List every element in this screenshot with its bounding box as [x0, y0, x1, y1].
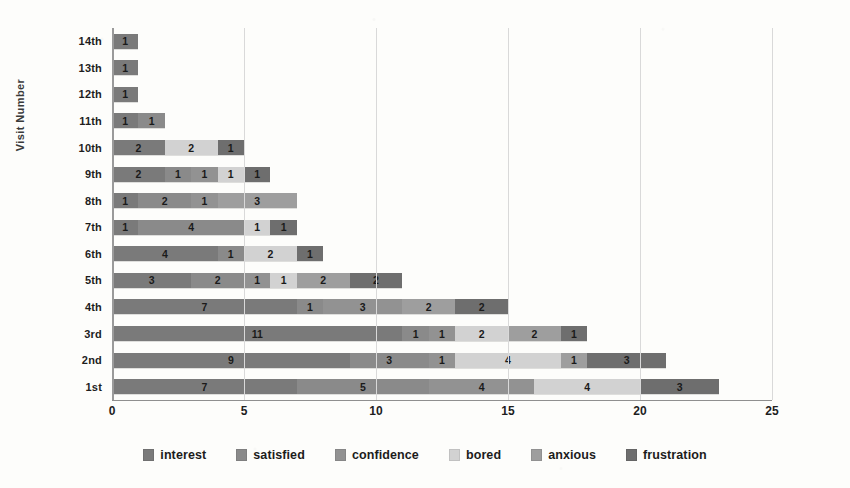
- bar-row-9th[interactable]: 9th21111: [112, 161, 772, 188]
- bar-segment-satisfied-7th[interactable]: 4: [138, 220, 244, 235]
- bar-segment-confidence-1st[interactable]: 4: [429, 379, 535, 394]
- bar-segment-anxious-2nd[interactable]: 1: [561, 353, 587, 368]
- bar-segment-satisfied-9th[interactable]: 1: [165, 167, 191, 182]
- x-tick-label-20: 20: [633, 404, 646, 418]
- bar-row-5th[interactable]: 5th321122: [112, 267, 772, 294]
- gridline-10: [376, 28, 377, 400]
- bar-row-10th[interactable]: 10th221: [112, 134, 772, 161]
- bar-row-4th[interactable]: 4th71322: [112, 294, 772, 321]
- bar-row-3rd[interactable]: 3rd1111221: [112, 320, 772, 347]
- stacked-bar-9th[interactable]: 21111: [112, 167, 270, 182]
- bar-segment-interest-7th[interactable]: 1: [112, 220, 138, 235]
- bar-segment-anxious-4th[interactable]: 2: [402, 299, 455, 314]
- bar-segment-interest-4th[interactable]: 7: [112, 299, 297, 314]
- bar-segment-interest-14th[interactable]: 1: [112, 34, 138, 49]
- gridline-5: [244, 28, 245, 400]
- x-axis-line: [112, 400, 772, 402]
- stacked-bar-6th[interactable]: 4121: [112, 246, 323, 261]
- chart-legend: interestsatisfiedconfidenceboredanxiousf…: [0, 448, 850, 462]
- y-tick-label-5th: 5th: [85, 274, 102, 286]
- bar-row-11th[interactable]: 11th11: [112, 108, 772, 135]
- bar-segment-anxious-5th[interactable]: 2: [297, 273, 350, 288]
- stacked-bar-2nd[interactable]: 931413: [112, 353, 666, 368]
- bar-segment-bored-7th[interactable]: 1: [244, 220, 270, 235]
- stacked-bar-14th[interactable]: 1: [112, 34, 138, 49]
- bar-segment-frustration-3rd[interactable]: 1: [561, 326, 587, 341]
- bar-segment-satisfied-3rd[interactable]: 1: [402, 326, 428, 341]
- bar-segment-interest-8th[interactable]: 1: [112, 193, 138, 208]
- bar-segment-confidence-4th[interactable]: 3: [323, 299, 402, 314]
- bar-row-14th[interactable]: 14th1: [112, 28, 772, 55]
- bar-segment-interest-10th[interactable]: 2: [112, 140, 165, 155]
- bar-segment-confidence-2nd[interactable]: 1: [429, 353, 455, 368]
- bar-segment-frustration-7th[interactable]: 1: [270, 220, 296, 235]
- bar-segment-bored-3rd[interactable]: 2: [455, 326, 508, 341]
- stacked-bar-chart: Visit Number 14th113th112th111th1110th22…: [0, 0, 850, 488]
- stacked-bar-4th[interactable]: 71322: [112, 299, 508, 314]
- legend-item-interest[interactable]: interest: [143, 448, 206, 462]
- stacked-bar-8th[interactable]: 1213: [112, 193, 297, 208]
- stacked-bar-5th[interactable]: 321122: [112, 273, 402, 288]
- legend-item-satisfied[interactable]: satisfied: [236, 448, 305, 462]
- bar-segment-interest-5th[interactable]: 3: [112, 273, 191, 288]
- legend-item-confidence[interactable]: confidence: [335, 448, 419, 462]
- plot-area: 14th113th112th111th1110th2219th211118th1…: [112, 28, 772, 400]
- y-axis-title: Visit Number: [14, 45, 26, 185]
- stacked-bar-12th[interactable]: 1: [112, 87, 138, 102]
- bar-segment-satisfied-11th[interactable]: 1: [138, 113, 164, 128]
- y-tick-label-7th: 7th: [85, 221, 102, 233]
- bar-segment-frustration-6th[interactable]: 1: [297, 246, 323, 261]
- bar-segment-bored-10th[interactable]: 2: [165, 140, 218, 155]
- legend-item-anxious[interactable]: anxious: [531, 448, 596, 462]
- bar-segment-confidence-9th[interactable]: 1: [191, 167, 217, 182]
- bar-segment-satisfied-2nd[interactable]: 3: [350, 353, 429, 368]
- bar-row-7th[interactable]: 7th1411: [112, 214, 772, 241]
- bar-segment-satisfied-8th[interactable]: 2: [138, 193, 191, 208]
- bar-segment-bored-9th[interactable]: 1: [218, 167, 244, 182]
- stacked-bar-7th[interactable]: 1411: [112, 220, 297, 235]
- legend-item-frustration[interactable]: frustration: [626, 448, 707, 462]
- bar-segment-frustration-10th[interactable]: 1: [218, 140, 244, 155]
- bar-segment-satisfied-4th[interactable]: 1: [297, 299, 323, 314]
- legend-item-bored[interactable]: bored: [449, 448, 501, 462]
- bar-segment-interest-13th[interactable]: 1: [112, 60, 138, 75]
- bar-segment-interest-2nd[interactable]: 9: [112, 353, 350, 368]
- bar-row-1st[interactable]: 1st75443: [112, 373, 772, 400]
- stacked-bar-11th[interactable]: 11: [112, 113, 165, 128]
- bar-segment-confidence-8th[interactable]: 1: [191, 193, 217, 208]
- bar-row-13th[interactable]: 13th1: [112, 55, 772, 82]
- bar-segment-frustration-4th[interactable]: 2: [455, 299, 508, 314]
- bar-segment-interest-9th[interactable]: 2: [112, 167, 165, 182]
- bar-segment-interest-1st[interactable]: 7: [112, 379, 297, 394]
- bar-segment-confidence-3rd[interactable]: 1: [429, 326, 455, 341]
- y-tick-label-4th: 4th: [85, 301, 102, 313]
- bar-segment-frustration-1st[interactable]: 3: [640, 379, 719, 394]
- stacked-bar-13th[interactable]: 1: [112, 60, 138, 75]
- bar-segment-bored-1st[interactable]: 4: [534, 379, 640, 394]
- bar-segment-anxious-3rd[interactable]: 2: [508, 326, 561, 341]
- bar-segment-frustration-2nd[interactable]: 3: [587, 353, 666, 368]
- bar-row-12th[interactable]: 12th1: [112, 81, 772, 108]
- bar-row-8th[interactable]: 8th1213: [112, 187, 772, 214]
- bar-segment-interest-11th[interactable]: 1: [112, 113, 138, 128]
- bar-segment-bored-6th[interactable]: 2: [244, 246, 297, 261]
- x-tick-label-25: 25: [765, 404, 778, 418]
- bar-segment-satisfied-6th[interactable]: 1: [218, 246, 244, 261]
- bar-row-2nd[interactable]: 2nd931413: [112, 347, 772, 374]
- stacked-bar-3rd[interactable]: 1111221: [112, 326, 587, 341]
- gridline-20: [640, 28, 641, 400]
- bar-segment-interest-3rd[interactable]: 11: [112, 326, 402, 341]
- bar-segment-satisfied-1st[interactable]: 5: [297, 379, 429, 394]
- stacked-bar-1st[interactable]: 75443: [112, 379, 719, 394]
- legend-label-satisfied: satisfied: [253, 448, 305, 462]
- bar-segment-bored-5th[interactable]: 1: [270, 273, 296, 288]
- bar-segment-frustration-9th[interactable]: 1: [244, 167, 270, 182]
- bar-segment-anxious-8th[interactable]: 3: [218, 193, 297, 208]
- stacked-bar-10th[interactable]: 221: [112, 140, 244, 155]
- bar-segment-interest-12th[interactable]: 1: [112, 87, 138, 102]
- bar-row-6th[interactable]: 6th4121: [112, 241, 772, 268]
- bar-segment-interest-6th[interactable]: 4: [112, 246, 218, 261]
- y-tick-label-1st: 1st: [86, 381, 103, 393]
- bar-segment-satisfied-5th[interactable]: 2: [191, 273, 244, 288]
- bar-segment-confidence-5th[interactable]: 1: [244, 273, 270, 288]
